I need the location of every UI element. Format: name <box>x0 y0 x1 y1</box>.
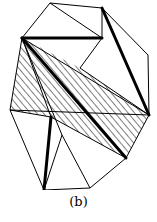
thin-edge <box>22 3 50 38</box>
thin-edge <box>50 3 102 8</box>
triangulation-diagram <box>0 0 157 190</box>
thin-edge <box>80 38 102 68</box>
hatched-polygon <box>10 38 149 158</box>
thin-edge <box>148 55 149 115</box>
thin-edge <box>102 8 148 55</box>
figure-caption: (b) <box>0 194 157 209</box>
thin-edge <box>44 188 90 190</box>
thin-edge <box>90 158 126 188</box>
thin-edge <box>10 110 44 190</box>
thin-edge <box>50 3 102 38</box>
thin-edge <box>62 135 90 188</box>
hatched-region <box>10 38 149 158</box>
